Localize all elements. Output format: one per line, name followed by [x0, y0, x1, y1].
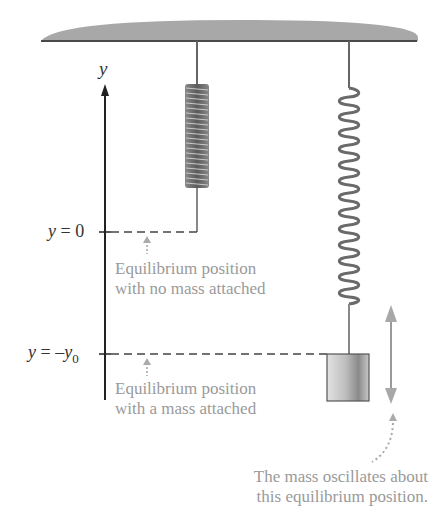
mass-block — [327, 354, 369, 401]
label-var: y — [28, 342, 36, 362]
label-y-equals-zero: y = 0 — [48, 221, 84, 242]
annotation-oscillation: The mass oscillates about this equilibri… — [254, 467, 428, 507]
label-eq: = – — [36, 342, 64, 362]
pointer-arrow-oscillation-icon — [372, 413, 397, 462]
label-var2: y — [64, 342, 72, 362]
diagram-graphics — [0, 0, 440, 516]
spring-diagram: y y = 0 y = –y0 Equilibrium position wit… — [0, 0, 440, 516]
annotation-no-mass: Equilibrium position with no mass attach… — [115, 259, 266, 299]
y-axis — [99, 84, 111, 400]
annotation-line: with a mass attached — [115, 399, 256, 419]
label-var: y — [48, 221, 56, 241]
pointer-arrow-no-mass-icon — [143, 236, 151, 254]
axis-label-y: y — [99, 58, 107, 80]
label-eq: = 0 — [56, 221, 84, 241]
spring-no-mass — [185, 41, 209, 232]
annotation-line: with no mass attached — [115, 279, 266, 299]
annotation-line: The mass oscillates about — [254, 467, 428, 487]
annotation-line: this equilibrium position. — [254, 487, 428, 507]
pointer-arrow-with-mass-icon — [143, 358, 151, 376]
annotation-line: Equilibrium position — [115, 379, 256, 399]
oscillation-arrow-icon — [385, 305, 397, 404]
annotation-line: Equilibrium position — [115, 259, 266, 279]
annotation-with-mass: Equilibrium position with a mass attache… — [115, 379, 256, 419]
label-y-equals-neg-y0: y = –y0 — [28, 342, 79, 367]
axis-var: y — [99, 58, 107, 79]
spring-with-mass — [339, 41, 359, 354]
ceiling — [41, 20, 418, 41]
label-subscript: 0 — [72, 351, 79, 366]
